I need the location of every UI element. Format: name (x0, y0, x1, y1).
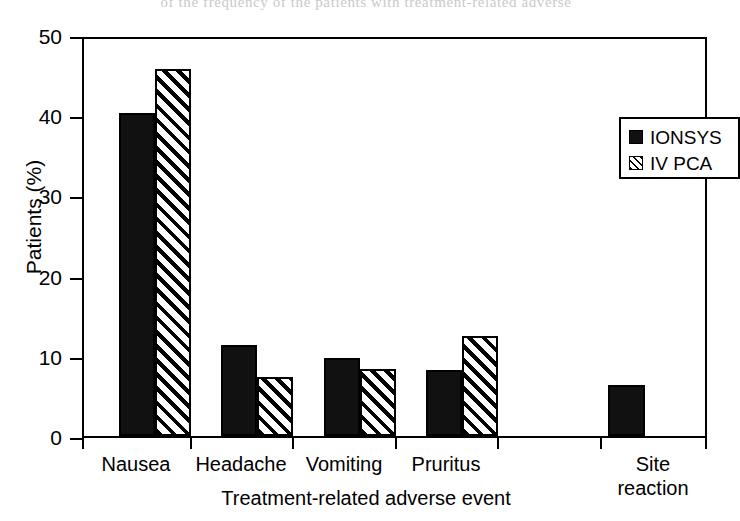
x-axis-title: Treatment-related adverse event (0, 487, 732, 510)
x-tick-4 (497, 438, 499, 449)
legend-label-iv-pca: IV PCA (650, 154, 712, 173)
bar-pruritus-ionsys (426, 370, 462, 436)
y-tick-label-0: 0 (14, 427, 62, 448)
bar-vomiting-iv-pca (360, 369, 396, 437)
bar-vomiting-ionsys (324, 358, 360, 436)
x-label-site-reaction-line1: Site (593, 452, 713, 476)
bar-site-reaction-ionsys (608, 385, 645, 436)
chart-legend: IONSYS IV PCA (619, 117, 740, 179)
bar-nausea-iv-pca (155, 69, 191, 436)
legend-label-ionsys: IONSYS (650, 128, 722, 147)
x-label-pruritus: Pruritus (386, 452, 506, 476)
x-tick-6 (705, 438, 707, 449)
legend-swatch-solid-icon (629, 130, 643, 144)
bar-headache-iv-pca (257, 377, 293, 436)
y-tick-label-10: 10 (14, 347, 62, 368)
x-tick-5 (600, 438, 602, 449)
y-axis-title: Patients (%) (22, 107, 46, 327)
legend-item-ionsys: IONSYS (629, 124, 738, 150)
plot-area: IONSYS IV PCA (82, 37, 707, 438)
bar-pruritus-iv-pca (462, 336, 498, 436)
x-tick-2 (292, 438, 294, 449)
bar-nausea-ionsys (119, 113, 155, 436)
bar-headache-ionsys (221, 345, 257, 436)
x-tick-3 (395, 438, 397, 449)
x-tick-1 (190, 438, 192, 449)
y-tick-label-50: 50 (14, 26, 62, 47)
x-tick-0 (82, 438, 84, 449)
legend-item-iv-pca: IV PCA (629, 150, 738, 176)
x-label-nausea: Nausea (76, 452, 196, 476)
legend-swatch-hatch-icon (629, 156, 643, 170)
x-label-headache: Headache (181, 452, 301, 476)
